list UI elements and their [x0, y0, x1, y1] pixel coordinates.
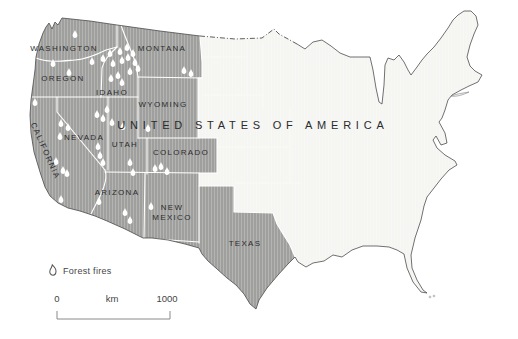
state-label: MONTANA	[138, 44, 187, 53]
scale-unit: km	[106, 293, 119, 304]
scale-bar: 0 km 1000	[54, 293, 177, 319]
forest-fire-icon	[31, 159, 36, 167]
forest-fires-map: UNITED STATES OF AMERICA WASHINGTONMONTA…	[0, 0, 518, 339]
florida-keys-islet	[433, 295, 435, 297]
state-label: UTAH	[112, 140, 138, 149]
state-label: OREGON	[41, 74, 84, 83]
florida-keys-islet	[429, 296, 431, 298]
map-title: UNITED STATES OF AMERICA	[117, 119, 388, 131]
state-label: NEVADA	[64, 133, 104, 142]
usa-map-svg: UNITED STATES OF AMERICA WASHINGTONMONTA…	[0, 0, 518, 339]
state-label: NEW	[161, 203, 184, 212]
state-label: COLORADO	[153, 148, 209, 157]
state-label: WASHINGTON	[30, 44, 98, 53]
scale-end: 1000	[156, 293, 177, 304]
legend-label: Forest fires	[63, 266, 112, 276]
state-label: TEXAS	[229, 239, 262, 248]
scale-bar-line	[57, 311, 170, 319]
forest-fire-legend-icon	[50, 265, 56, 275]
legend: Forest fires	[50, 265, 112, 276]
state-label: IDAHO	[96, 88, 128, 97]
scale-start: 0	[54, 293, 59, 304]
state-label: MEXICO	[152, 213, 191, 222]
forest-fire-icon	[34, 181, 39, 189]
state-label: ARIZONA	[95, 188, 140, 197]
state-label: WYOMING	[138, 100, 187, 109]
